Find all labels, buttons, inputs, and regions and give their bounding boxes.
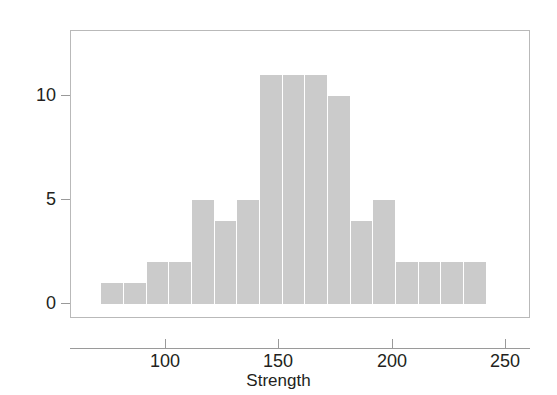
histogram-bar [305, 75, 328, 304]
y-tick-mark-0 [61, 303, 70, 304]
histogram-bar [215, 221, 238, 304]
histogram-bar [169, 262, 192, 304]
histogram-figure: Frequency 10 5 0 100 150 200 250 Strengt… [0, 0, 557, 395]
histogram-bar [101, 283, 124, 304]
y-tick-label-5: 5 [8, 190, 56, 208]
x-tick-mark-200 [392, 339, 393, 348]
histogram-bar [237, 200, 260, 304]
y-tick-mark-5 [61, 199, 70, 200]
histogram-bar [124, 283, 147, 304]
x-tick-mark-150 [278, 339, 279, 348]
x-tick-label-150: 150 [263, 352, 293, 370]
x-tick-label-250: 250 [490, 352, 520, 370]
histogram-bar [283, 75, 306, 304]
histogram-bar [396, 262, 419, 304]
y-tick-label-10: 10 [8, 86, 56, 104]
x-tick-mark-250 [505, 339, 506, 348]
y-tick-mark-10 [61, 95, 70, 96]
histogram-bar [328, 96, 351, 304]
histogram-bar [464, 262, 487, 304]
bars-layer [71, 31, 529, 317]
plot-area [70, 30, 530, 318]
x-axis-label: Strength [0, 371, 557, 391]
histogram-bar [351, 221, 374, 304]
histogram-bar [441, 262, 464, 304]
x-tick-mark-100 [165, 339, 166, 348]
x-tick-label-100: 100 [150, 352, 180, 370]
x-tick-label-200: 200 [377, 352, 407, 370]
histogram-bar [373, 200, 396, 304]
histogram-bar [147, 262, 170, 304]
histogram-bar [260, 75, 283, 304]
histogram-bar [419, 262, 442, 304]
y-tick-label-0: 0 [8, 294, 56, 312]
histogram-bar [192, 200, 215, 304]
x-axis-spine [70, 348, 530, 349]
